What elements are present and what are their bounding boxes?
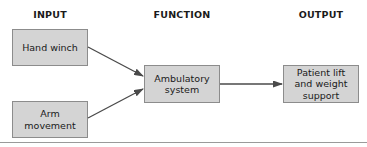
divider: [0, 142, 367, 143]
arrow-hand-winch-to-ambulatory: [88, 47, 143, 76]
arrows: [0, 0, 367, 147]
arrow-arm-movement-to-ambulatory: [88, 89, 143, 118]
